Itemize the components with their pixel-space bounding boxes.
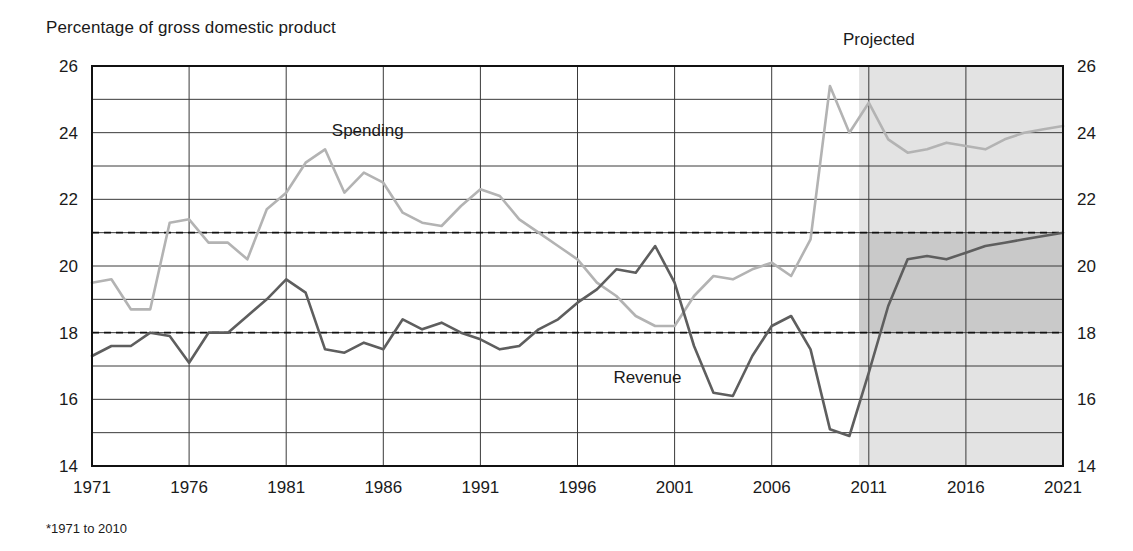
projected-gap-band [859, 233, 1063, 333]
x-tick-label: 1976 [170, 478, 208, 497]
y-tick-label-left: 26 [59, 57, 78, 76]
x-tick-label: 1981 [267, 478, 305, 497]
y-tick-label-right: 18 [1077, 324, 1096, 343]
y-tick-label-right: 16 [1077, 390, 1096, 409]
y-tick-label-right: 20 [1077, 257, 1096, 276]
x-tick-label: 2016 [947, 478, 985, 497]
y-tick-label-left: 16 [59, 390, 78, 409]
x-tick-label: 2021 [1044, 478, 1082, 497]
y-tick-label-left: 20 [59, 257, 78, 276]
x-tick-label: 1986 [364, 478, 402, 497]
y-tick-label-left: 18 [59, 324, 78, 343]
series-label-spending: Spending [332, 121, 404, 140]
y-tick-label-left: 22 [59, 190, 78, 209]
x-tick-label: 2011 [851, 478, 888, 497]
y-tick-label-right: 26 [1077, 57, 1096, 76]
x-tick-label: 2001 [656, 478, 694, 497]
x-tick-label: 1991 [461, 478, 499, 497]
x-tick-label: 2006 [753, 478, 791, 497]
y-tick-label-right: 14 [1077, 457, 1096, 476]
chart-footnote: *1971 to 2010 [46, 521, 127, 536]
y-tick-label-right: 22 [1077, 190, 1096, 209]
x-tick-label: 1996 [559, 478, 597, 497]
chart-figure: Percentage of gross domestic product Pro… [0, 0, 1133, 551]
y-tick-label-left: 14 [59, 457, 78, 476]
y-tick-label-left: 24 [59, 124, 78, 143]
series-label-revenue: Revenue [613, 368, 681, 387]
y-tick-label-right: 24 [1077, 124, 1096, 143]
x-tick-label: 1971 [73, 478, 111, 497]
line-chart-plot: 1414161618182020222224242626197119761981… [0, 0, 1133, 551]
